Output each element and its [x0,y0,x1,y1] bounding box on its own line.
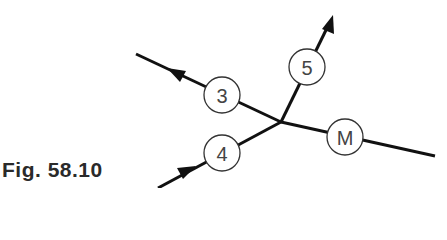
node-3-label: 3 [216,85,227,107]
node-3: 3 [204,77,240,113]
arrow-out-3-icon [167,68,186,82]
node-5-label: 5 [301,57,312,79]
node-4: 4 [204,135,240,171]
node-m-label: M [337,127,354,149]
node-5: 5 [289,49,325,85]
node-4-label: 4 [216,143,227,165]
figure-caption: Fig. 58.10 [2,158,103,182]
node-m: M [327,119,363,155]
